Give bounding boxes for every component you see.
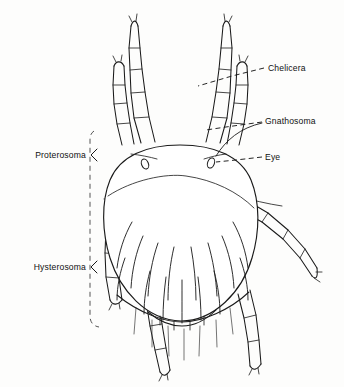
leg-1-right-joint-3 — [219, 69, 231, 70]
leg-3-right-joint-2 — [283, 230, 288, 239]
leg-3-right-joint-3 — [300, 249, 305, 258]
label-hysterosoma: Hysterosoma — [34, 262, 86, 272]
palp-right-joint-1 — [231, 123, 244, 124]
palp-right — [227, 55, 248, 145]
palp-left-tip — [114, 62, 124, 66]
label-chelicera: Chelicera — [268, 63, 306, 73]
leg-4-left-joint-3 — [155, 348, 166, 350]
leg-1-left-tip-setae — [129, 14, 137, 22]
palp-right-outer — [239, 66, 248, 145]
leg-1-left-joint-1 — [134, 117, 149, 118]
region-bracket — [90, 131, 99, 327]
leg-1-left-inner — [138, 26, 155, 142]
palp-right-tip-setae — [239, 55, 248, 62]
leg-1-left-joint-2 — [131, 92, 145, 93]
hysterosoma-brace — [91, 261, 97, 273]
label-eye: Eye — [265, 152, 280, 162]
leg-1-right-tip-setae — [224, 14, 232, 22]
palp-left-joint-1 — [117, 123, 130, 124]
leg-3-left-joint-3 — [106, 277, 119, 278]
leg-3-left-tip — [110, 300, 122, 304]
proterosoma-brace — [91, 149, 97, 161]
leg-3-right-tip — [312, 268, 317, 278]
figure-root: Chelicera Gnathosoma Eye Proterosoma Hys… — [0, 0, 344, 387]
leg-2-right-joint-1 — [244, 315, 256, 318]
leg-2-right — [238, 290, 261, 375]
label-gnathosoma: Gnathosoma — [265, 116, 316, 126]
seta-v2 — [168, 326, 169, 356]
leg-4-left-tip — [160, 370, 170, 375]
palp-left — [113, 55, 134, 145]
leg-2-right-inner — [250, 290, 261, 364]
leg-2-right-outer — [238, 294, 250, 366]
seta-v6 — [134, 308, 136, 334]
leg-3-right-tip-setae — [314, 272, 322, 282]
seta-v4 — [199, 326, 200, 356]
leg-1-right-joint-1 — [212, 117, 227, 118]
mite-dorsal-diagram: Chelicera Gnathosoma Eye Proterosoma Hys… — [0, 0, 344, 387]
palp-right-joint-2 — [234, 103, 247, 104]
leg-3-right-joint-1 — [262, 213, 268, 222]
leg-1-left-joint-3 — [130, 69, 142, 70]
seta-v7 — [230, 308, 233, 334]
label-proterosoma: Proterosoma — [35, 150, 86, 160]
palp-left-tip-setae — [113, 55, 122, 62]
leg-1-right — [206, 14, 232, 143]
leg-2-right-joint-2 — [248, 340, 259, 342]
leg-1-right-joint-2 — [216, 92, 230, 93]
leg-1-right-inner — [206, 26, 223, 142]
leg-1-left — [129, 14, 155, 143]
palp-right-tip — [237, 62, 247, 66]
palp-left-outer — [113, 66, 122, 145]
leg-2-right-tip — [250, 364, 261, 369]
seta-v5 — [216, 320, 217, 347]
palp-left-joint-2 — [114, 103, 127, 104]
gnathosoma-leader-extra — [216, 123, 262, 156]
